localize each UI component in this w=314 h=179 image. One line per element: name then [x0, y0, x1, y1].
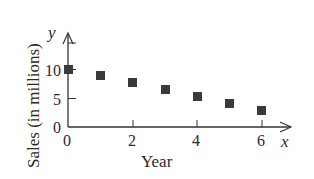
data-point [64, 65, 73, 74]
data-point [161, 85, 170, 94]
data-points [64, 65, 266, 115]
x-axis-title: Year [141, 152, 173, 171]
y-variable-label: y [46, 23, 56, 42]
data-point [257, 106, 266, 115]
scatter-chart: 0 0 2 4 6 5 10 y x Year Sales (in millio… [0, 0, 314, 179]
x-tick-label: 2 [128, 132, 136, 149]
y-tick-label: 5 [53, 91, 61, 108]
y-tick-label: 10 [45, 62, 61, 79]
data-point [225, 99, 234, 108]
data-point [193, 92, 202, 101]
y-axis-title: Sales (in millions) [24, 43, 43, 168]
x-tick-label: 6 [257, 132, 265, 149]
x-tick-label: 0 [63, 132, 71, 149]
data-point [128, 78, 137, 87]
origin-label: 0 [53, 119, 61, 136]
data-point [96, 71, 105, 80]
x-variable-label: x [280, 132, 289, 151]
x-tick-label: 4 [192, 132, 200, 149]
